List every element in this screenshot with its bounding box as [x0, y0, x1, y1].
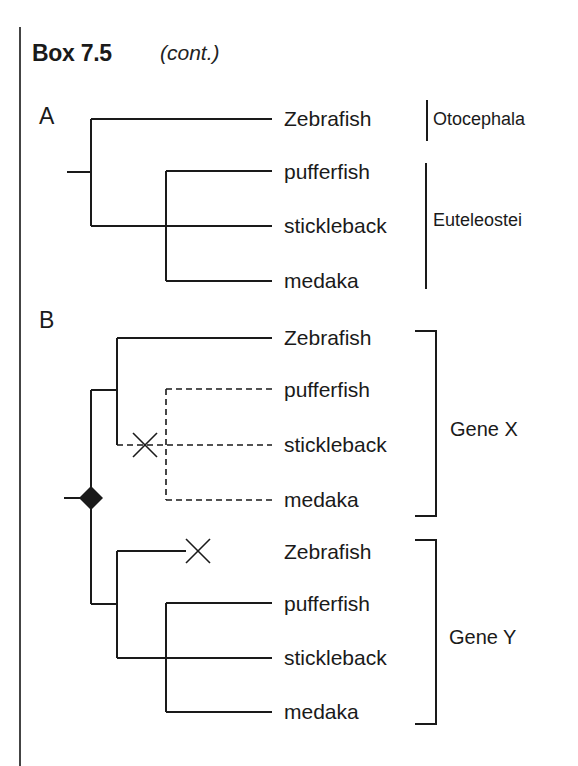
- x-mark-icon: [186, 539, 210, 563]
- x-mark-icon: [133, 433, 157, 457]
- taxon-label: stickleback: [284, 214, 387, 238]
- gene-tree-b: [64, 338, 272, 712]
- taxon-label: Zebrafish: [284, 107, 372, 131]
- taxon-label: medaka: [284, 269, 359, 293]
- taxon-label: Zebrafish: [284, 540, 372, 564]
- taxon-label: stickleback: [284, 433, 387, 457]
- clade-bars: [426, 100, 427, 289]
- gene-x-label: Gene X: [450, 418, 518, 441]
- species-tree-a: [67, 119, 272, 281]
- panel-label-b: B: [39, 307, 54, 334]
- taxon-label: pufferfish: [284, 160, 370, 184]
- diamond-icon: [79, 486, 103, 510]
- clade-label-otocephala: Otocephala: [433, 109, 525, 130]
- taxon-label: stickleback: [284, 646, 387, 670]
- gene-brackets: [415, 331, 436, 724]
- taxon-label: medaka: [284, 488, 359, 512]
- taxon-label: pufferfish: [284, 592, 370, 616]
- taxon-label: pufferfish: [284, 378, 370, 402]
- taxon-label: medaka: [284, 700, 359, 724]
- clade-label-euteleostei: Euteleostei: [433, 210, 522, 231]
- lost-lineage-dashed: [117, 389, 272, 500]
- taxon-label: Zebrafish: [284, 326, 372, 350]
- gene-y-label: Gene Y: [449, 626, 516, 649]
